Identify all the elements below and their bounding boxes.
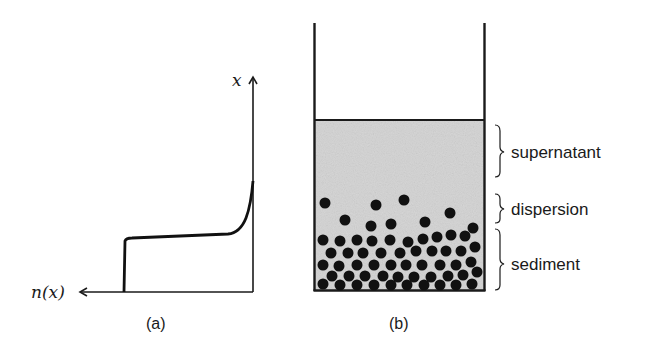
panel-b-container: [314, 23, 486, 291]
region-braces: [495, 125, 504, 290]
label-supernatant: supernatant: [511, 143, 601, 162]
brace-sediment: [495, 229, 504, 290]
caption-a: (a): [146, 315, 166, 332]
brace-supernatant: [495, 125, 504, 177]
brace-dispersion: [495, 194, 504, 223]
x-axis-label: n(x): [31, 282, 65, 302]
y-axis-label: x: [232, 70, 242, 90]
label-sediment: sediment: [511, 255, 580, 274]
caption-b: (b): [389, 315, 409, 332]
label-dispersion: dispersion: [511, 200, 589, 219]
concentration-curve: [124, 181, 253, 292]
figure: x n(x) (a): [0, 0, 651, 358]
panel-a-plot: [80, 77, 253, 292]
